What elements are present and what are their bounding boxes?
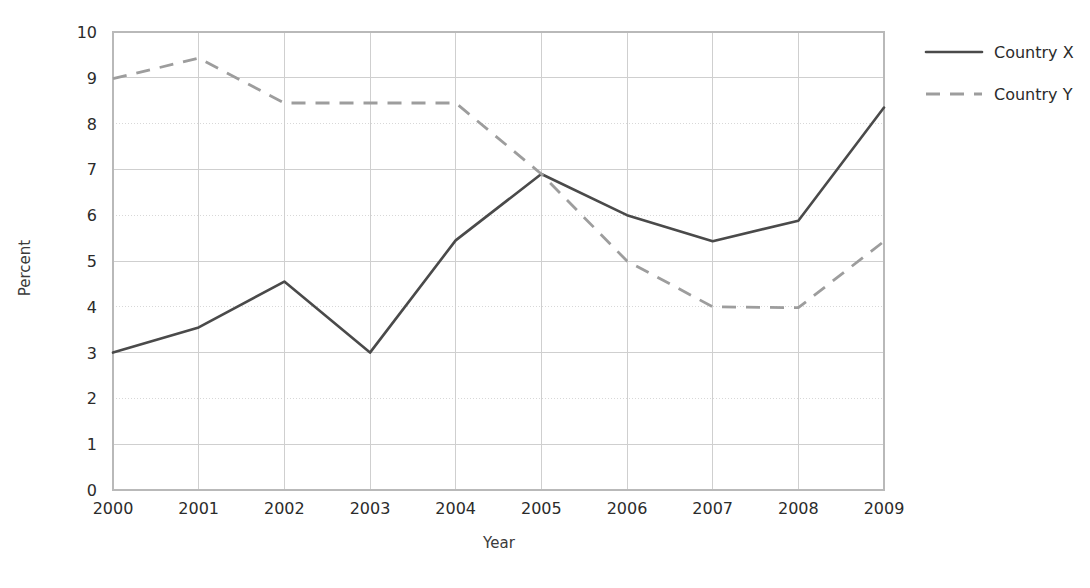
y-tick-label: 9 [87,69,97,88]
y-axis-tick-labels: 012345678910 [77,23,97,500]
y-tick-label: 8 [87,115,97,134]
series-line-country-x [113,108,884,353]
x-tick-label: 2002 [264,499,305,518]
x-axis-tick-labels: 2000200120022003200420052006200720082009 [93,499,905,518]
x-tick-label: 2006 [607,499,648,518]
legend-label: Country X [994,43,1074,62]
y-tick-label: 4 [87,298,97,317]
grid-lines [113,32,884,490]
chart-canvas: 012345678910 200020012002200320042005200… [0,0,1090,588]
x-tick-label: 2004 [435,499,476,518]
y-tick-label: 5 [87,252,97,271]
x-tick-label: 2001 [178,499,219,518]
y-tick-label: 7 [87,160,97,179]
x-tick-label: 2003 [350,499,391,518]
x-tick-label: 2000 [93,499,134,518]
data-series [113,58,884,352]
legend-label: Country Y [994,85,1073,104]
x-tick-label: 2008 [778,499,819,518]
y-tick-label: 3 [87,344,97,363]
x-tick-label: 2005 [521,499,562,518]
line-chart: 012345678910 200020012002200320042005200… [0,0,1090,588]
x-tick-label: 2007 [692,499,733,518]
y-axis-title: Percent [16,240,34,297]
y-tick-label: 6 [87,206,97,225]
x-axis-title: Year [482,534,516,552]
series-line-country-y [113,58,884,308]
y-tick-label: 2 [87,389,97,408]
x-tick-label: 2009 [864,499,905,518]
y-tick-label: 1 [87,435,97,454]
y-tick-label: 10 [77,23,97,42]
y-tick-label: 0 [87,481,97,500]
chart-legend: Country XCountry Y [926,43,1074,104]
